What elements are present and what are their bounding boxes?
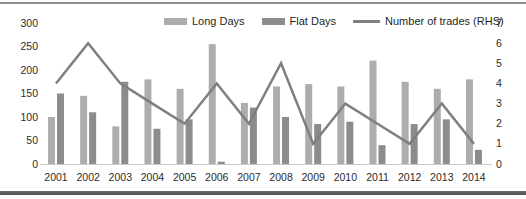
left-axis-tick-50: 50 (26, 134, 38, 146)
chart-canvas: 0501001502002503000123456720012002200320… (0, 0, 526, 190)
bar-flat-2009 (314, 124, 321, 164)
x-axis-label-2004: 2004 (141, 171, 165, 183)
bar-long-2011 (370, 61, 377, 164)
x-axis-label-2009: 2009 (302, 171, 326, 183)
bottom-border-rule (0, 191, 526, 195)
bar-long-2003 (112, 126, 119, 164)
x-axis-label-2011: 2011 (366, 171, 389, 183)
left-axis-tick-0: 0 (32, 158, 38, 170)
bar-flat-2013 (443, 119, 450, 164)
bar-long-2006 (209, 44, 216, 164)
left-axis-tick-200: 200 (20, 64, 38, 76)
legend-label-long-days: Long Days (192, 15, 245, 27)
right-axis-tick-1: 1 (496, 137, 502, 149)
x-axis-label-2002: 2002 (76, 171, 100, 183)
legend-item-number-of-trades: Number of trades (RHS) (353, 15, 504, 27)
bar-long-2008 (273, 86, 280, 164)
x-axis-label-2006: 2006 (205, 171, 229, 183)
bar-long-2013 (434, 89, 441, 164)
x-axis-label-2010: 2010 (334, 171, 358, 183)
flat-days-swatch-icon (262, 18, 285, 25)
legend-label-flat-days: Flat Days (290, 15, 336, 27)
bar-long-2004 (144, 79, 151, 164)
chart-figure: 0501001502002503000123456720012002200320… (0, 0, 526, 199)
bar-long-2005 (177, 89, 184, 164)
legend-item-long-days: Long Days (164, 15, 245, 27)
x-axis-label-2008: 2008 (269, 171, 293, 183)
bar-flat-2008 (282, 117, 289, 164)
right-axis-tick-0: 0 (496, 158, 502, 170)
right-axis-tick-2: 2 (496, 117, 502, 129)
chart-legend: Long Days Flat Days Number of trades (RH… (164, 15, 504, 27)
bar-flat-2011 (379, 145, 386, 164)
x-axis-label-2003: 2003 (109, 171, 133, 183)
bar-long-2001 (48, 117, 55, 164)
right-axis-tick-5: 5 (496, 57, 502, 69)
x-axis-label-2001: 2001 (44, 171, 68, 183)
bar-flat-2005 (186, 119, 193, 164)
bar-flat-2002 (89, 112, 96, 164)
left-axis-tick-100: 100 (20, 111, 38, 123)
legend-label-number-of-trades: Number of trades (RHS) (385, 15, 504, 27)
left-axis-tick-250: 250 (20, 40, 38, 52)
bar-long-2012 (402, 82, 409, 164)
bar-flat-2001 (57, 94, 64, 165)
bar-flat-2014 (475, 150, 482, 164)
x-axis-label-2013: 2013 (430, 171, 454, 183)
bar-flat-2010 (346, 122, 353, 164)
right-axis-tick-6: 6 (496, 37, 502, 49)
bar-long-2014 (466, 79, 473, 164)
left-axis-tick-150: 150 (20, 87, 38, 99)
x-axis-label-2007: 2007 (237, 171, 261, 183)
bar-flat-2006 (218, 162, 225, 164)
x-axis-label-2014: 2014 (462, 171, 486, 183)
bar-long-2002 (80, 96, 87, 164)
x-axis-label-2012: 2012 (398, 171, 422, 183)
bar-long-2010 (337, 86, 344, 164)
trades-line-swatch-icon (353, 20, 380, 23)
right-axis-tick-4: 4 (496, 77, 502, 89)
bar-flat-2004 (153, 129, 160, 164)
left-axis-tick-300: 300 (20, 17, 38, 29)
long-days-swatch-icon (164, 18, 187, 25)
bar-flat-2012 (411, 124, 418, 164)
legend-item-flat-days: Flat Days (262, 15, 336, 27)
right-axis-tick-3: 3 (496, 97, 502, 109)
bar-flat-2003 (121, 82, 128, 164)
bar-long-2007 (241, 103, 248, 164)
x-axis-label-2005: 2005 (173, 171, 197, 183)
